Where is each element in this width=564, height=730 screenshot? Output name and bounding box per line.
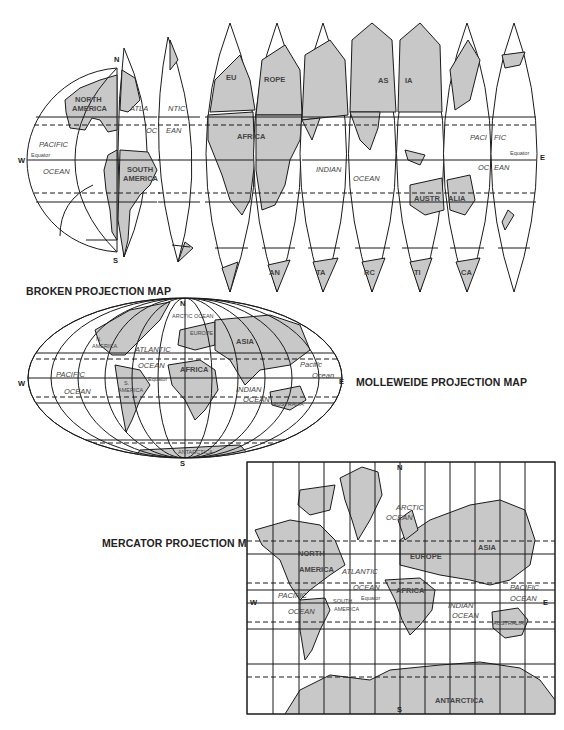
north-america-label-2: AMERICA [299,565,335,574]
asia-label: ASIA [236,337,255,346]
antarctica-label: ANTARCTICA [435,696,484,705]
atlantic-ocean-label-a: OC [146,126,158,135]
east-label: E [543,598,548,607]
indian-label: INDIAN [236,385,262,394]
south-label: S [180,459,185,468]
s-america-label: S. [124,380,130,386]
north-america-label: NORTH [298,549,325,558]
pacific-west-ocean-label: OCEAN [288,607,315,616]
atlantic-label-a: ATLA [129,104,148,113]
north-label: N [397,463,402,472]
gore-5 [254,23,303,292]
atlantic-ocean-label: OCEAN [138,361,165,370]
east-label: E [540,153,545,162]
pacific-west-label: PACIFIC [278,591,308,600]
indian-label: INDIAN [316,165,342,174]
molleweide-projection-map [28,298,342,462]
equator-label-east: Equator [510,150,529,156]
antarctica-label: ANTARCTICA [178,449,213,455]
north-america-label: NORTH [75,95,102,104]
equator-label-west: Equator [31,152,50,158]
pacific-east-label-b: FIC [494,133,507,142]
gore-10 [490,23,537,292]
gore-6 [300,23,348,292]
north-label: N [180,299,185,308]
south-america-label: SOUTH [333,598,352,604]
south-america-label-2: AMERICA [334,606,359,612]
gore-western-globe [27,68,117,252]
south-america-label: SOUTH [127,165,153,174]
west-label: W [18,379,26,388]
africa-label: AFRICA [180,365,209,374]
south-label: S [397,705,402,714]
antarctica-label-3: TI [414,268,421,277]
africa-label: AFRICA [396,586,425,595]
n-america-label: N. [96,336,102,342]
antarctica-label-0: AN [269,268,280,277]
pacific-east-label-a: PACI [470,133,487,142]
atlantic-label: ATLANTIC [341,567,378,576]
europe-label-b: ROPE [264,75,285,84]
europe-label-a: EU [226,73,236,82]
west-label: W [18,156,26,165]
gore-3 [158,37,205,262]
europe-label: EUROPE [410,552,442,561]
pacific-east-ocean-label-b: EAN [494,163,510,172]
pacific-east-label: PACIFIC [510,583,540,592]
atlantic-label-b: NTIC [168,104,186,113]
asia-label-b: IA [405,76,413,85]
arctic-label: ARCTIC [395,503,425,512]
maps-canvas: N S W E Equator Equator NORTH AMERICA SO… [0,0,564,730]
atlantic-label: ATLANTIC [134,345,171,354]
gore-8 [396,23,444,292]
pacific-west-ocean-label: OCEAN [64,387,91,396]
arctic-ocean-label: OCEAN [386,513,413,522]
asia-label: ASIA [478,543,497,552]
pacific-east-ocean-label: Ocean [312,371,334,380]
australia-label-b: ALIA [448,194,466,203]
australia-label: AUSTRALIA [493,620,524,626]
equator-label: Equator [361,595,380,601]
arctic-ocean-label: ARCTIC OCEAN [172,313,214,319]
north-label: N [114,55,119,64]
north-america-label-2: AMERICA [72,104,108,113]
south-label: S [113,256,118,265]
europe-label: EUROPE [190,330,214,336]
equator-label: Equator [148,376,167,382]
australia-label: AUSTRALIA [273,401,304,407]
pacific-west-label: PACIFIC [56,370,86,379]
pacific-east-ocean-label: OCEAN [510,594,537,603]
antarctica-label-2: RC [364,268,375,277]
gore-2 [117,48,162,257]
asia-label-a: AS [378,76,388,85]
gore-4 [205,23,256,292]
australia-label-a: AUSTR [414,194,440,203]
antarctica-label-1: TA [316,268,326,277]
pacific-west-ocean-label: OCEAN [43,167,70,176]
south-america-label-2: AMERICA [123,174,159,183]
indian-ocean-label: OCEAN [353,174,380,183]
pacific-east-label: Pacific [300,360,322,369]
pacific-west-label: PACIFIC [39,140,69,149]
gore-9 [444,23,492,292]
indian-ocean-label: OCEAN [452,611,479,620]
west-label: W [250,598,258,607]
gore-7 [348,23,396,292]
africa-label: AFRICA [237,132,266,141]
n-america-label-2: AMERICA [92,343,117,349]
broken-projection-map [27,23,537,292]
indian-ocean-label: OCEAN [243,395,270,404]
east-label: E [339,377,344,386]
indian-label: INDIAN [448,601,474,610]
antarctica-label-4: CA [461,268,472,277]
s-america-label-2: AMERICA [118,387,143,393]
atlantic-ocean-label: OCEAN [353,583,380,592]
atlantic-ocean-label-b: EAN [166,126,182,135]
pacific-east-ocean-label-a: OC [478,163,490,172]
